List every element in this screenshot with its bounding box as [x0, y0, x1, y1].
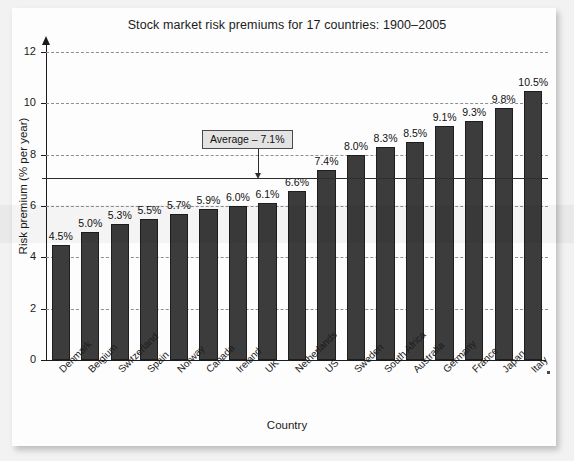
bar-value-label-italy: 10.5%	[513, 76, 553, 88]
bar-japan	[495, 108, 513, 360]
bar-sweden	[347, 155, 365, 360]
bar-australia	[406, 142, 424, 360]
y-tick-label-10: 10	[10, 96, 36, 108]
chart-title: Stock market risk premiums for 17 countr…	[0, 18, 574, 32]
y-tick-mark-4	[41, 257, 46, 258]
gridline-10	[46, 103, 548, 104]
y-tick-label-0: 0	[10, 353, 36, 365]
bar-value-label-us: 7.4%	[307, 155, 347, 167]
y-tick-mark-12	[41, 52, 46, 53]
bar-switzerland	[111, 224, 129, 360]
bar-germany	[435, 126, 453, 360]
bar-norway	[170, 214, 188, 360]
bar-value-label-australia: 8.5%	[395, 127, 435, 139]
bar-value-label-france: 9.3%	[454, 106, 494, 118]
bar-uk	[258, 203, 276, 360]
bar-value-label-japan: 9.8%	[484, 93, 524, 105]
y-tick-label-4: 4	[10, 250, 36, 262]
bar-france	[465, 121, 483, 360]
scan-speck	[547, 371, 550, 374]
y-tick-mark-10	[41, 103, 46, 104]
y-tick-label-2: 2	[10, 302, 36, 314]
y-tick-mark-0	[41, 360, 46, 361]
y-tick-mark-8	[41, 155, 46, 156]
average-callout-box: Average – 7.1%	[202, 130, 293, 149]
bar-south-africa	[376, 147, 394, 360]
plot-area: 4.5%5.0%5.3%5.5%5.7%5.9%6.0%6.1%6.6%7.4%…	[46, 52, 548, 360]
average-line	[42, 178, 548, 179]
bar-netherlands	[288, 191, 306, 360]
x-axis-title: Country	[0, 419, 574, 431]
bar-value-label-uk: 6.1%	[247, 188, 287, 200]
y-tick-mark-2	[41, 309, 46, 310]
bar-canada	[199, 209, 217, 360]
bar-ireland	[229, 206, 247, 360]
y-tick-mark-6	[41, 206, 46, 207]
gridline-12	[46, 52, 548, 53]
average-callout-arrow-icon	[255, 173, 261, 179]
bar-value-label-denmark: 4.5%	[41, 230, 81, 242]
chart-page: Stock market risk premiums for 17 countr…	[0, 0, 574, 461]
y-tick-label-12: 12	[10, 45, 36, 57]
bar-denmark	[52, 245, 70, 361]
y-tick-label-6: 6	[10, 199, 36, 211]
y-tick-label-8: 8	[10, 148, 36, 160]
bar-italy	[524, 91, 542, 361]
